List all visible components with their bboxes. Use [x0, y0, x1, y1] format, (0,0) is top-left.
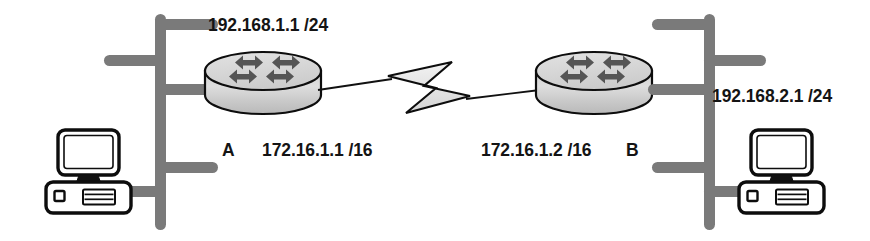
- right-bus-stub-top-left: [652, 19, 710, 30]
- left-lan-ip-label: 192.168.1.1 /24: [208, 15, 329, 35]
- left-bus-stub-lower-right: [160, 162, 218, 173]
- left-router-icon: [205, 52, 321, 114]
- left-router-top: [205, 52, 321, 90]
- wan-line-left: [318, 79, 392, 90]
- wan-link-group: [318, 62, 540, 113]
- left-router-name-label: A: [222, 140, 235, 160]
- right-pc-power-button: [748, 191, 758, 201]
- right-pc-icon: [739, 130, 824, 213]
- network-diagram: 192.168.1.1 /24 A 172.16.1.1 /16 172.16.…: [0, 0, 870, 241]
- left-pc-power-button: [55, 191, 65, 201]
- right-bus-stub-lower-left: [652, 162, 710, 173]
- left-bus-trunk: [155, 14, 166, 230]
- right-lan-ip-label: 192.168.2.1 /24: [712, 86, 833, 106]
- right-router-top: [536, 52, 652, 90]
- lightning-bolt-icon: [388, 62, 470, 113]
- left-wan-ip-label: 172.16.1.1 /16: [262, 140, 373, 160]
- right-pc-drive-bay: [776, 190, 808, 205]
- right-wan-ip-label: 172.16.1.2 /16: [481, 140, 592, 160]
- wan-line-right: [466, 90, 540, 99]
- right-router-icon: [536, 52, 652, 114]
- left-pc-drive-bay: [83, 190, 115, 205]
- right-bus-to-router-cable: [648, 84, 710, 95]
- left-pc-screen: [64, 136, 113, 169]
- right-pc-screen: [757, 136, 806, 169]
- right-router-name-label: B: [626, 140, 639, 160]
- right-bus-trunk: [704, 14, 715, 230]
- left-pc-icon: [46, 130, 131, 213]
- network-diagram-canvas: 192.168.1.1 /24 A 172.16.1.1 /16 172.16.…: [0, 0, 870, 241]
